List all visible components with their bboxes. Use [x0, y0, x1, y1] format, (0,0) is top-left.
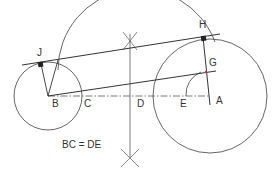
diagram-canvas: J H G B C D E A BC = DE — [0, 0, 280, 174]
radius-bj — [41, 64, 48, 96]
label-g: G — [209, 57, 217, 68]
construction-arc — [58, 0, 215, 70]
label-a: A — [216, 95, 223, 106]
right-angle-j — [38, 62, 44, 68]
tangent-line — [22, 34, 220, 65]
equation-text: BC = DE — [62, 139, 102, 150]
label-e: E — [180, 98, 187, 109]
label-h: H — [199, 19, 206, 30]
line-bg — [48, 71, 216, 96]
geometry-diagram: J H G B C D E A BC = DE — [0, 0, 280, 174]
label-d: D — [137, 98, 144, 109]
line-b-arc — [48, 60, 58, 96]
right-angle-h — [201, 36, 207, 42]
label-b: B — [52, 98, 59, 109]
label-c: C — [84, 98, 91, 109]
point-g-marker — [205, 71, 207, 73]
label-j: J — [37, 47, 42, 58]
